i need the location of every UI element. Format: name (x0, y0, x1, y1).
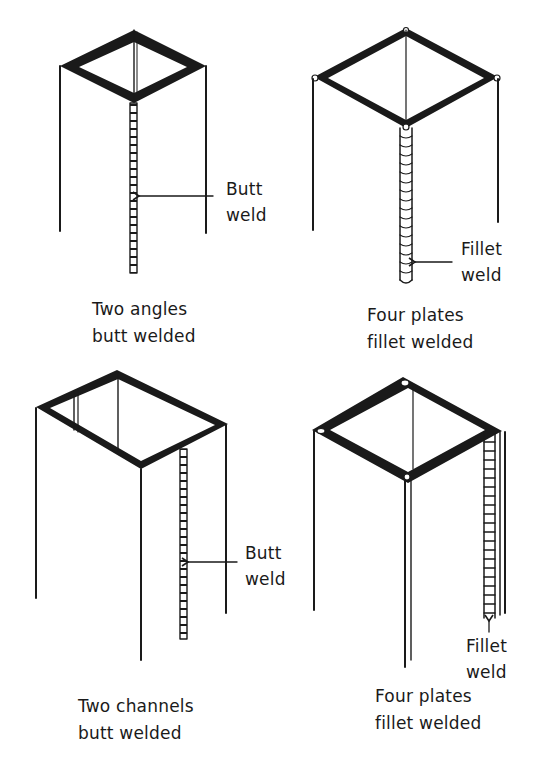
welded-sections-diagram (0, 0, 539, 768)
panel-two-angles (60, 30, 213, 273)
callout-line1: Fillet (466, 633, 507, 659)
caption-line2: fillet welded (375, 710, 481, 737)
caption-four-plates-a: Four plates fillet welded (367, 302, 473, 356)
panel-two-channels (36, 370, 237, 660)
fillet-weld (400, 128, 412, 283)
callout-line2: weld (226, 202, 267, 228)
butt-weld (180, 449, 187, 639)
top-frame (60, 30, 206, 103)
callout-line2: weld (461, 262, 502, 288)
caption-two-angles: Two angles butt welded (92, 296, 196, 350)
callout-line2: weld (466, 659, 507, 685)
caption-line1: Two channels (78, 693, 194, 720)
caption-line1: Four plates (375, 683, 481, 710)
caption-line2: butt welded (78, 720, 194, 747)
panel-four-plates-b (312, 377, 505, 667)
caption-line1: Two angles (92, 296, 196, 323)
caption-line1: Four plates (367, 302, 473, 329)
callout-line2: weld (245, 566, 286, 592)
caption-two-channels: Two channels butt welded (78, 693, 194, 747)
callout-line1: Butt (245, 540, 286, 566)
callout-fillet-weld-2: Fillet weld (466, 633, 507, 685)
butt-weld (130, 103, 137, 273)
top-frame (36, 370, 228, 469)
callout-butt-weld-2: Butt weld (245, 540, 286, 592)
callout-line1: Butt (226, 176, 267, 202)
caption-line2: butt welded (92, 323, 196, 350)
caption-four-plates-b: Four plates fillet welded (375, 683, 481, 737)
top-frame (312, 377, 502, 483)
callout-butt-weld-1: Butt weld (226, 176, 267, 228)
fillet-weld (484, 434, 495, 618)
callout-line1: Fillet (461, 236, 502, 262)
caption-line2: fillet welded (367, 329, 473, 356)
callout-fillet-weld-1: Fillet weld (461, 236, 502, 288)
